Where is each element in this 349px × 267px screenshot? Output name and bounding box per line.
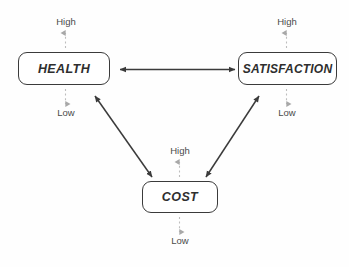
node-health-label: HEALTH <box>38 62 90 76</box>
node-cost-label: COST <box>162 190 198 204</box>
cost-low-label: Low <box>160 235 200 246</box>
connector-satisfaction-cost <box>206 96 259 177</box>
node-satisfaction[interactable]: SATISFACTION <box>238 52 337 85</box>
satisfaction-low-label: Low <box>267 107 307 118</box>
satisfaction-high-label: High <box>267 16 307 27</box>
node-cost[interactable]: COST <box>142 181 218 213</box>
node-satisfaction-label: SATISFACTION <box>243 62 333 76</box>
cost-high-label: High <box>160 145 200 156</box>
diagram-canvas: HEALTH High Low SATISFACTION High Low CO… <box>0 0 349 267</box>
connector-health-cost <box>95 96 152 177</box>
node-health[interactable]: HEALTH <box>18 52 110 85</box>
health-high-label: High <box>46 16 86 27</box>
health-low-label: Low <box>46 107 86 118</box>
diagram-connectors <box>0 0 349 267</box>
